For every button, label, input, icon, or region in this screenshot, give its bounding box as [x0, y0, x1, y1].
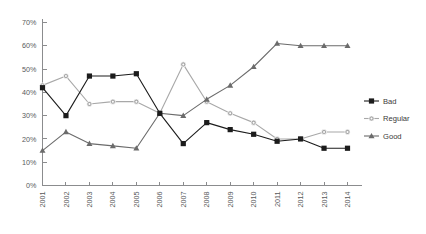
- y-axis-tick-label: 0%: [26, 181, 37, 190]
- series-point: [274, 40, 280, 45]
- series-point: [110, 73, 115, 78]
- series-point-center: [229, 112, 231, 114]
- line-chart: 0%10%20%30%40%50%60%70% 2001200220032004…: [0, 0, 426, 234]
- x-axis-tick-label: 2002: [62, 192, 71, 208]
- series-point-center: [253, 122, 255, 124]
- x-axis-tick-label: 2013: [320, 192, 329, 208]
- x-axis: 2001200220032004200520062007200820092010…: [38, 182, 361, 208]
- y-axis-tick-label: 40%: [22, 88, 37, 97]
- x-axis-tick-label: 2004: [108, 192, 117, 208]
- series-point: [251, 132, 256, 137]
- series-point: [157, 111, 162, 116]
- x-axis-tick-label: 2014: [343, 192, 352, 208]
- series-point-center: [88, 103, 90, 105]
- y-axis-tick-label: 70%: [22, 18, 37, 27]
- series-point: [63, 113, 68, 118]
- series-point: [40, 85, 45, 90]
- legend-item-regular[interactable]: Regular: [364, 114, 410, 123]
- legend-label: Regular: [383, 114, 410, 123]
- x-axis-tick-label: 2011: [273, 192, 282, 207]
- legend-item-good[interactable]: Good: [364, 132, 402, 141]
- series-good: [40, 40, 351, 153]
- series-point-center: [65, 75, 67, 77]
- y-axis-tick-label: 60%: [22, 41, 37, 50]
- series-regular: [40, 62, 350, 142]
- series-point-center: [371, 118, 373, 120]
- series-point: [63, 129, 69, 134]
- data-series-group: [40, 40, 351, 153]
- series-point: [275, 139, 280, 144]
- y-axis-tick-label: 10%: [22, 158, 37, 167]
- legend-label: Good: [383, 132, 402, 141]
- series-point-center: [323, 131, 325, 133]
- y-axis-tick-label: 50%: [22, 65, 37, 74]
- x-axis-tick-label: 2008: [202, 192, 211, 208]
- series-point: [321, 146, 326, 151]
- x-axis-tick-label: 2012: [296, 192, 305, 208]
- x-axis-tick-label: 2001: [38, 192, 47, 208]
- chart-canvas: 0%10%20%30%40%50%60%70% 2001200220032004…: [0, 0, 426, 234]
- series-point-center: [135, 101, 137, 103]
- series-point-center: [112, 101, 114, 103]
- series-point-center: [182, 63, 184, 65]
- legend-label: Bad: [383, 97, 397, 106]
- series-point: [86, 140, 92, 145]
- series-point: [345, 146, 350, 151]
- series-point: [134, 71, 139, 76]
- x-axis-tick-label: 2006: [155, 192, 164, 208]
- x-axis-tick-label: 2007: [179, 192, 188, 208]
- series-point: [87, 73, 92, 78]
- y-axis-tick-label: 30%: [22, 111, 37, 120]
- x-axis-tick-label: 2005: [132, 192, 141, 208]
- series-point-center: [347, 131, 349, 133]
- series-point: [298, 136, 303, 141]
- series-point: [228, 127, 233, 132]
- legend-item-bad[interactable]: Bad: [364, 97, 397, 106]
- y-axis-tick-label: 20%: [22, 135, 37, 144]
- series-line: [43, 43, 348, 150]
- series-point: [369, 98, 374, 103]
- series-point: [204, 120, 209, 125]
- y-axis: 0%10%20%30%40%50%60%70%: [22, 18, 46, 190]
- chart-legend: BadRegularGood: [364, 97, 410, 141]
- series-point: [181, 141, 186, 146]
- x-axis-tick-label: 2003: [85, 192, 94, 208]
- x-axis-tick-label: 2009: [226, 192, 235, 208]
- x-axis-tick-label: 2010: [249, 192, 258, 208]
